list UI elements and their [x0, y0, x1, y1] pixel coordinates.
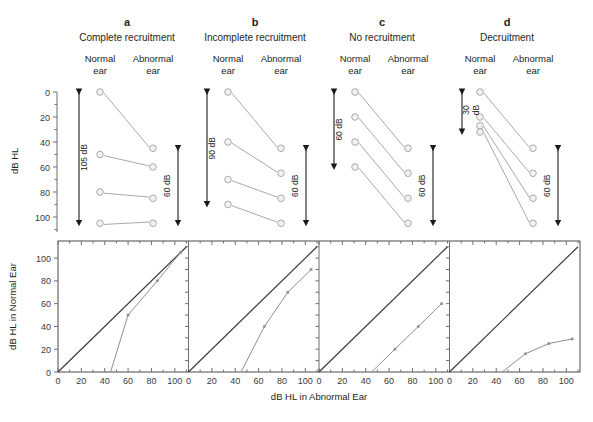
abnormal-ear-point-a-2 — [150, 195, 157, 202]
bottom-x-tick-label: 20 — [207, 376, 217, 386]
bottom-x-tick-label: 80 — [407, 376, 417, 386]
left-range-label-c: 60 dB — [334, 118, 344, 141]
laddergram-connector-d-3 — [484, 133, 529, 222]
normal-ear-point-b-1 — [225, 139, 232, 146]
abnormal-ear-label2-b: ear — [274, 65, 288, 76]
normal-ear-point-c-2 — [352, 139, 359, 146]
growth-curve-point-b-1 — [263, 325, 266, 328]
bottom-x-tick-label: 100 — [167, 376, 182, 386]
bottom-x-tick-label: 40 — [100, 376, 110, 386]
bottom-y-tick-label: 60 — [41, 299, 51, 309]
abnormal-ear-point-b-2 — [278, 195, 285, 202]
growth-curve-point-c-1 — [394, 348, 397, 351]
laddergram-connector-b-0 — [232, 93, 277, 147]
growth-curve-c — [372, 304, 442, 372]
bottom-x-tick-label: 100 — [298, 376, 313, 386]
bottom-x-tick-label: 0 — [447, 376, 452, 386]
normal-ear-label-b: Normal — [213, 53, 244, 64]
normal-ear-label2-c: ear — [348, 65, 362, 76]
bottom-x-tick-label: 100 — [559, 376, 574, 386]
normal-ear-point-d-2 — [477, 122, 484, 129]
reference-diagonal-a — [58, 247, 187, 372]
panel-title-d: Decruitment — [480, 32, 534, 43]
bottom-y-tick-label: 20 — [41, 345, 51, 355]
normal-ear-point-c-0 — [352, 89, 359, 96]
top-y-tick-label: 60 — [40, 163, 50, 173]
bottom-y-tick-label: 100 — [36, 254, 51, 264]
growth-curve-point-b-3 — [310, 268, 313, 271]
bottom-x-tick-label: 0 — [186, 376, 191, 386]
growth-curve-point-c-2 — [417, 325, 420, 328]
normal-ear-point-a-2 — [97, 189, 104, 196]
laddergram-connector-c-0 — [359, 93, 404, 147]
bottom-x-tick-label: 0 — [316, 376, 321, 386]
laddergram-connector-b-3 — [232, 206, 277, 222]
left-range-label-a: 105 dB — [79, 144, 89, 171]
abnormal-ear-point-d-1 — [530, 170, 537, 177]
bottom-x-tick-label: 40 — [491, 376, 501, 386]
bottom-x-tick-label: 100 — [428, 376, 443, 386]
reference-diagonal-c — [319, 247, 448, 372]
bottom-x-tick-label: 20 — [468, 376, 478, 386]
abnormal-ear-point-a-1 — [150, 164, 157, 171]
bottom-x-tick-label: 60 — [123, 376, 133, 386]
bottom-x-tick-label: 80 — [277, 376, 287, 386]
abnormal-ear-label-a: Abnormal — [133, 53, 174, 64]
bottom-y-tick-label: 80 — [41, 276, 51, 286]
normal-ear-label-c: Normal — [340, 53, 371, 64]
panel-letter-b: b — [252, 16, 259, 28]
normal-ear-point-c-3 — [352, 164, 359, 171]
bottom-y-axis-title: dB HL in Normal Ear — [7, 263, 18, 350]
panel-letter-c: c — [379, 16, 385, 28]
abnormal-ear-point-a-3 — [150, 220, 157, 227]
abnormal-ear-label-b: Abnormal — [261, 53, 302, 64]
normal-ear-point-d-3 — [477, 129, 484, 136]
abnormal-ear-point-d-0 — [530, 145, 537, 152]
right-range-label-a: 60 dB — [162, 174, 172, 197]
abnormal-ear-label-c: Abnormal — [388, 53, 429, 64]
laddergram-connector-d-0 — [484, 93, 529, 147]
normal-ear-point-b-3 — [225, 201, 232, 208]
right-range-label-d: 60 dB — [542, 174, 552, 197]
laddergram-connector-d-1 — [484, 118, 529, 172]
bottom-x-tick-label: 40 — [230, 376, 240, 386]
normal-ear-label-a: Normal — [85, 53, 116, 64]
growth-curve-a — [111, 252, 181, 372]
panel-letter-a: a — [124, 16, 131, 28]
normal-ear-label2-d: ear — [473, 65, 487, 76]
growth-curve-point-d-2 — [547, 342, 550, 345]
reference-diagonal-d — [450, 247, 579, 372]
laddergram-connector-c-3 — [359, 168, 404, 222]
laddergram-connector-a-0 — [104, 93, 149, 147]
panel-letter-d: d — [504, 16, 511, 28]
laddergram-connector-c-2 — [359, 143, 404, 197]
growth-curve-point-a-3 — [179, 251, 182, 254]
laddergram-connector-b-1 — [232, 143, 277, 172]
left-range-label-d-2: dB — [471, 104, 481, 115]
top-y-tick-label: 80 — [40, 188, 50, 198]
normal-ear-point-a-0 — [97, 89, 104, 96]
abnormal-ear-label2-a: ear — [146, 65, 160, 76]
bottom-y-tick-label: 40 — [41, 322, 51, 332]
top-y-tick-label: 40 — [40, 138, 50, 148]
growth-curve-point-a-1 — [127, 314, 130, 317]
growth-curve-point-a-2 — [156, 280, 159, 283]
right-range-label-b: 60 dB — [290, 174, 300, 197]
normal-ear-point-d-0 — [477, 89, 484, 96]
laddergram-connector-a-3 — [104, 222, 149, 224]
normal-ear-label-d: Normal — [465, 53, 496, 64]
normal-ear-point-c-1 — [352, 114, 359, 121]
abnormal-ear-label-d: Abnormal — [513, 53, 554, 64]
bottom-x-tick-label: 0 — [55, 376, 60, 386]
normal-ear-point-b-2 — [225, 176, 232, 183]
left-range-label-d-1: 30 — [461, 105, 471, 115]
right-range-label-c: 60 dB — [417, 174, 427, 197]
top-y-tick-label: 20 — [40, 113, 50, 123]
reference-diagonal-b — [189, 247, 318, 372]
bottom-x-tick-label: 60 — [254, 376, 264, 386]
top-y-tick-label: 100 — [35, 213, 50, 223]
laddergram-connector-b-2 — [232, 181, 277, 197]
growth-curve-point-b-2 — [286, 291, 289, 294]
abnormal-ear-point-b-1 — [278, 170, 285, 177]
abnormal-ear-point-c-1 — [405, 170, 412, 177]
